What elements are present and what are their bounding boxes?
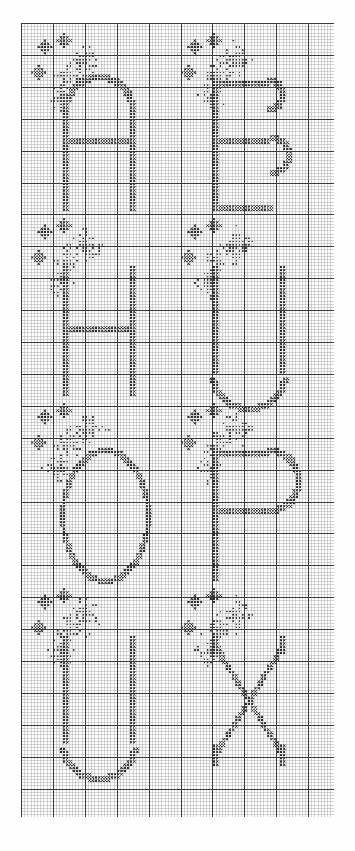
pattern-grid-container bbox=[21, 23, 334, 817]
cross-stitch-chart-page: Alphabet Cross Stitch Chart bbox=[0, 0, 355, 851]
pattern-grid-canvas bbox=[21, 23, 334, 817]
